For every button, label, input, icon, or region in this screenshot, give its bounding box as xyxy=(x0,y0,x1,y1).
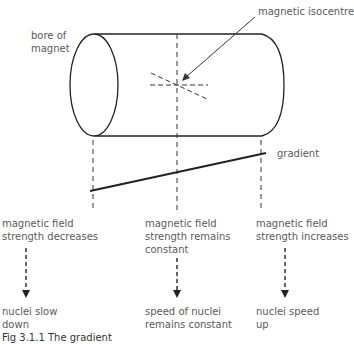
center-result-line1: speed of nuclei xyxy=(145,305,232,318)
isocentre-pointer-arrow xyxy=(182,17,255,81)
center-field-line3: constant xyxy=(145,243,231,256)
left-result-line2: down xyxy=(2,318,57,331)
figure-caption: Fig 3.1.1 The gradient xyxy=(2,331,112,344)
center-field-line2: strength remains xyxy=(145,230,231,243)
center-result-label: speed of nuclei remains constant xyxy=(145,305,232,331)
left-field-line2: strength decreases xyxy=(2,230,98,243)
right-field-label: magnetic field strength increases xyxy=(256,217,349,243)
left-result-label: nuclei slow down xyxy=(2,305,57,331)
gradient-line xyxy=(90,153,266,191)
bore-label: bore of magnet xyxy=(31,29,70,55)
right-field-line2: strength increases xyxy=(256,230,349,243)
right-result-line1: nuclei speed xyxy=(256,305,319,318)
right-field-line1: magnetic field xyxy=(256,217,349,230)
right-result-line2: up xyxy=(256,318,319,331)
left-field-label: magnetic field strength decreases xyxy=(2,217,98,243)
left-result-line1: nuclei slow xyxy=(2,305,57,318)
bore-label-line1: bore of xyxy=(31,29,70,42)
gradient-label: gradient xyxy=(277,147,319,160)
isocentre-label: magnetic isocentre xyxy=(258,5,354,18)
arrow-heads xyxy=(22,290,289,298)
left-field-line1: magnetic field xyxy=(2,217,98,230)
bore-label-line2: magnet xyxy=(31,42,70,55)
center-field-line1: magnetic field xyxy=(145,217,231,230)
isocentre-axes xyxy=(150,73,208,99)
center-result-line2: remains constant xyxy=(145,318,232,331)
center-field-label: magnetic field strength remains constant xyxy=(145,217,231,256)
right-result-label: nuclei speed up xyxy=(256,305,319,331)
